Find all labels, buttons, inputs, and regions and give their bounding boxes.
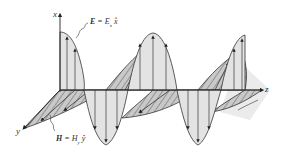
h-rhs: = H <box>64 134 77 143</box>
h-sub: y <box>77 140 79 145</box>
h-unit: ŷ <box>82 134 86 143</box>
y-axis-label: y <box>16 127 20 136</box>
z-axis-label: z <box>265 85 269 94</box>
magnetic-field-label: H = Hy ŷ <box>56 135 85 145</box>
e-rhs: = E <box>97 17 109 26</box>
em-wave-diagram: x z y E = Ex x̂ H = Hy ŷ <box>0 0 281 157</box>
e-symbol: E <box>90 17 95 26</box>
e-sub: x <box>110 23 112 28</box>
e-unit: x̂ <box>114 17 118 26</box>
electric-field-label: E = Ex x̂ <box>90 18 117 28</box>
wave-drawing <box>0 0 281 157</box>
x-axis-label: x <box>53 10 57 19</box>
h-symbol: H <box>56 134 62 143</box>
